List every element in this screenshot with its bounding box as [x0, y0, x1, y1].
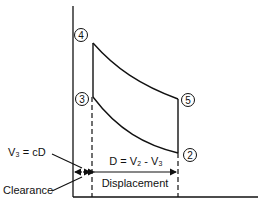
displacement-label: Displacement	[102, 177, 169, 189]
clearance-label: Clearance	[3, 184, 53, 196]
point-4-label: 4	[78, 30, 84, 41]
pv-diagram: 4 3 5 2 V₃ = cD Clearance D = V₂ - V₃ Di…	[0, 0, 262, 206]
leader-v3	[52, 154, 82, 168]
compression-curve-2-3	[93, 97, 178, 153]
point-2-label: 2	[187, 150, 193, 161]
point-2-marker: 2	[184, 149, 197, 162]
point-5-marker: 5	[182, 94, 195, 107]
displacement-formula: D = V₂ - V₃	[109, 155, 163, 167]
expansion-curve-4-5	[93, 43, 178, 99]
point-3-marker: 3	[76, 93, 89, 106]
point-3-label: 3	[79, 94, 85, 105]
clearance-volume-label: V₃ = cD	[8, 146, 46, 158]
point-4-marker: 4	[75, 29, 88, 42]
leader-clearance	[52, 177, 82, 191]
point-5-label: 5	[185, 95, 191, 106]
